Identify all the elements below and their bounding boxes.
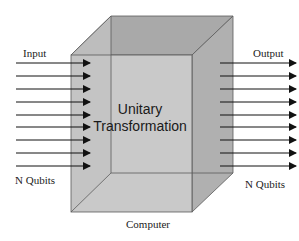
input-label: Input (23, 47, 46, 59)
box-label-line2: Transformation (93, 118, 187, 134)
output-label: Output (253, 47, 284, 59)
box-caption: Computer (126, 218, 170, 230)
input-qubits-label: N Qubits (15, 174, 55, 186)
output-qubits-label: N Qubits (245, 178, 285, 190)
quantum-computer-diagram: Unitary Transformation Input Output N Qu… (0, 0, 299, 241)
box-label-line1: Unitary (118, 101, 162, 117)
